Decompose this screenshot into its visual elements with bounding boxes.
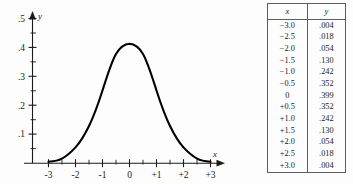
table-row: +0.5 .352 [268,102,345,114]
x-tick-label: -3 [45,170,53,180]
y-tick-label: .1 [18,129,25,139]
cell-y: .018 [307,149,345,161]
cell-y: .352 [307,78,345,90]
table-row: 0 .399 [268,90,345,102]
table-header-row: x y [268,4,345,20]
table-row: +1.5 .130 [268,125,345,137]
column-header-y: y [307,4,345,20]
normal-curve-figure: .1 .2 .3 .4 .5 -3 -2 -1 0 +1 +2 +3 y x [0,0,245,184]
cell-x: +1.5 [268,125,307,137]
table-row: −0.5 .352 [268,78,345,90]
table-row: −2.0 .054 [268,43,345,55]
cell-y: .130 [307,55,345,67]
x-tick-label: -2 [72,170,80,180]
y-tick-label: .3 [18,72,25,82]
table-row: −1.0 .242 [268,67,345,79]
table-body: −3.0 .004 −2.5 .018 −2.0 .054 −1.5 .130 … [268,20,345,173]
normal-distribution-curve [49,44,211,162]
y-axis-minor-ticks [31,33,37,149]
cell-y: .054 [307,43,345,55]
xy-data-table: x y −3.0 .004 −2.5 .018 −2.0 .054 −1.5 .… [268,4,345,172]
x-tick-label: -1 [99,170,107,180]
cell-x: −2.5 [268,32,307,44]
cell-y: .004 [307,20,345,32]
x-tick-label: +1 [151,170,161,180]
table-row: −3.0 .004 [268,20,345,32]
x-tick-label: +3 [205,170,215,180]
cell-x: −1.5 [268,55,307,67]
table-row: −2.5 .018 [268,32,345,44]
cell-x: +2.0 [268,137,307,149]
table-row: +2.0 .054 [268,137,345,149]
column-header-x: x [268,4,307,20]
x-axis-label: x [212,149,217,159]
cell-y: .054 [307,137,345,149]
cell-y: .130 [307,125,345,137]
x-tick-label: 0 [127,170,132,180]
table-row: +1.0 .242 [268,114,345,126]
cell-x: −2.0 [268,43,307,55]
x-axis-arrow-icon [217,160,226,167]
table-header: x y [268,4,345,20]
y-tick-label: .4 [18,43,25,53]
x-tick-label: +2 [178,170,188,180]
table-row: +2.5 .018 [268,149,345,161]
data-table-container: x y −3.0 .004 −2.5 .018 −2.0 .054 −1.5 .… [267,3,346,173]
table-row: −1.5 .130 [268,55,345,67]
cell-x: −3.0 [268,20,307,32]
y-tick-label: .5 [18,14,25,24]
cell-y: .352 [307,102,345,114]
cell-x: +3.0 [268,160,307,172]
cell-x: −1.0 [268,67,307,79]
y-tick-label: .2 [18,101,25,111]
cell-x: +2.5 [268,149,307,161]
y-axis-label: y [37,11,42,21]
cell-y: .004 [307,160,345,172]
cell-y: .242 [307,114,345,126]
cell-x: +1.0 [268,114,307,126]
cell-x: −0.5 [268,78,307,90]
cell-x: +0.5 [268,102,307,114]
cell-y: .399 [307,90,345,102]
table-row: +3.0 .004 [268,160,345,172]
cell-y: .242 [307,67,345,79]
plot-canvas: .1 .2 .3 .4 .5 -3 -2 -1 0 +1 +2 +3 y x [0,0,245,184]
cell-y: .018 [307,32,345,44]
cell-x: 0 [268,90,307,102]
